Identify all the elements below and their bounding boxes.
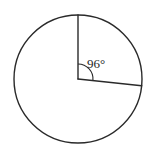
angle-measure-label: 96° [87, 56, 105, 71]
geometry-figure-canvas: 96° [0, 0, 149, 149]
diagram-background [0, 0, 149, 149]
circle-angle-diagram: 96° [0, 0, 149, 149]
